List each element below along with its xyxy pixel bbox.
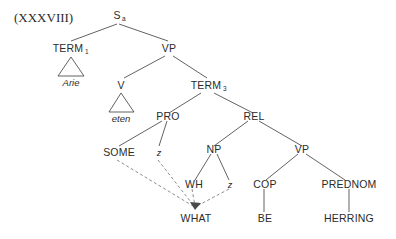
node-term3-subscript: 3 <box>223 85 227 92</box>
branch-root-to-vp <box>119 24 168 41</box>
node-np: NP <box>207 143 222 155</box>
coreference-links <box>117 160 229 210</box>
branch-vp-to-term3 <box>173 56 207 78</box>
node-vp-rel: VP <box>295 143 309 155</box>
terminal-arie: Arie <box>62 77 80 88</box>
branch-vprel-to-cop <box>266 154 298 180</box>
node-prednom: PREDNOM <box>321 178 376 190</box>
branch-pro-to-z <box>159 121 167 146</box>
node-pro: PRO <box>156 110 179 122</box>
node-herring: HERRING <box>324 212 374 224</box>
arrowhead-icon <box>190 202 201 210</box>
coref-z-np-to-what <box>197 189 229 206</box>
figure-canvas: (XXXVIII) S a TERM 1 VP V TERM 3 PRO REL… <box>0 0 396 239</box>
node-v: V <box>117 79 124 91</box>
branch-root-to-term1 <box>71 24 117 41</box>
node-root-subscript: a <box>122 15 126 22</box>
node-what: WHAT <box>181 212 212 224</box>
node-wh: WH <box>185 178 203 190</box>
node-term1-subscript: 1 <box>85 48 89 55</box>
triangle-term1-arie <box>58 57 84 76</box>
terminal-eten: eten <box>112 113 131 124</box>
branch-vprel-to-prednom <box>306 154 345 180</box>
node-root-S: S <box>113 9 120 21</box>
node-be: BE <box>258 212 272 224</box>
coref-some-to-what <box>117 160 193 206</box>
tree-node-labels: S a TERM 1 VP V TERM 3 PRO REL SOME z NP… <box>53 9 377 224</box>
branch-vp-to-v <box>124 56 165 78</box>
node-term3: TERM <box>191 79 222 91</box>
node-z-np: z <box>227 180 233 190</box>
node-z-pro: z <box>156 148 162 158</box>
node-vp-top: VP <box>162 42 176 54</box>
branch-np-to-wh <box>195 154 211 180</box>
node-term1: TERM <box>53 42 84 54</box>
syntax-tree-diagram: (XXXVIII) S a TERM 1 VP V TERM 3 PRO REL… <box>0 0 396 239</box>
branch-pro-to-some <box>119 121 162 146</box>
triangle-v-eten <box>109 93 134 112</box>
branch-np-to-z <box>217 154 229 180</box>
example-number-label: (XXXVIII) <box>14 10 73 25</box>
node-rel: REL <box>243 110 264 122</box>
node-cop: COP <box>253 178 276 190</box>
node-some: SOME <box>103 146 135 158</box>
